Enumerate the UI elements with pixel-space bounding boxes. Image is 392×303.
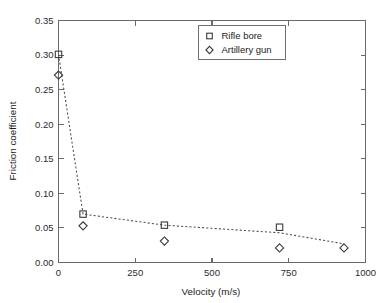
x-tick-label: 500 (204, 267, 220, 278)
marker-diamond (340, 244, 348, 252)
chart-legend: Rifle boreArtillery gun (199, 26, 286, 60)
y-tick-label: 0.00 (35, 257, 54, 268)
trend-polyline (59, 54, 345, 243)
x-axis-tick-labels: 02505007501000 (56, 267, 376, 278)
y-axis-title: Friction coefficient (7, 101, 18, 180)
x-tick-label: 250 (127, 267, 143, 278)
series-artillery-gun (54, 71, 348, 252)
friction-coefficient-chart: 02505007501000 0.000.050.100.150.200.250… (0, 0, 392, 303)
x-axis-title: Velocity (m/s) (182, 286, 241, 297)
marker-diamond (275, 244, 283, 252)
y-tick-label: 0.05 (35, 222, 54, 233)
y-tick-label: 0.30 (35, 49, 54, 60)
x-tick-label: 1000 (355, 267, 376, 278)
y-tick-label: 0.20 (35, 119, 54, 130)
y-tick-label: 0.25 (35, 84, 54, 95)
legend-label: Rifle bore (222, 30, 263, 41)
marker-diamond (79, 222, 87, 230)
y-tick-label: 0.10 (35, 188, 54, 199)
y-axis-tick-labels: 0.000.050.100.150.200.250.300.35 (35, 15, 54, 268)
trend-line (59, 54, 345, 243)
marker-square (276, 224, 282, 230)
legend-label: Artillery gun (222, 44, 272, 55)
series-markers (54, 51, 348, 252)
y-tick-label: 0.35 (35, 15, 54, 26)
series-rifle-bore (55, 51, 282, 230)
x-tick-label: 750 (281, 267, 297, 278)
marker-diamond (160, 237, 168, 245)
x-tick-label: 0 (56, 267, 61, 278)
y-tick-label: 0.15 (35, 153, 54, 164)
chart-canvas: 02505007501000 0.000.050.100.150.200.250… (0, 0, 392, 303)
